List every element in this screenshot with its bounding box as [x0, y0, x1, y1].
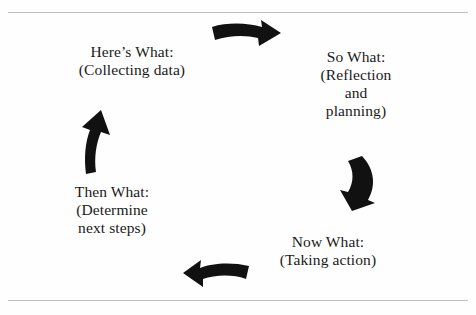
cycle-diagram-page: Here’s What: (Collecting data) So What: …: [0, 0, 476, 315]
node-now-what: Now What: (Taking action): [258, 233, 398, 269]
node-here-what-line1: Here’s What:: [52, 43, 212, 61]
arrow-bottom-left-icon: [183, 260, 249, 287]
node-then-what-line1: Then What:: [48, 183, 176, 201]
node-so-what-line1: So What:: [300, 48, 412, 66]
node-then-what-line3: next steps): [48, 219, 176, 237]
node-now-what-line1: Now What:: [258, 233, 398, 251]
node-here-what-line2: (Collecting data): [52, 61, 212, 79]
arrow-right-down-icon: [340, 156, 375, 211]
node-so-what-line3: and: [300, 84, 412, 102]
node-then-what: Then What: (Determine next steps): [48, 183, 176, 237]
arrow-left-up-icon: [82, 110, 110, 174]
node-so-what-line4: planning): [300, 102, 412, 120]
arrow-top-right-icon: [212, 20, 281, 46]
node-then-what-line2: (Determine: [48, 201, 176, 219]
node-so-what: So What: (Reflection and planning): [300, 48, 412, 121]
node-now-what-line2: (Taking action): [258, 251, 398, 269]
node-here-what: Here’s What: (Collecting data): [52, 43, 212, 79]
node-so-what-line2: (Reflection: [300, 66, 412, 84]
